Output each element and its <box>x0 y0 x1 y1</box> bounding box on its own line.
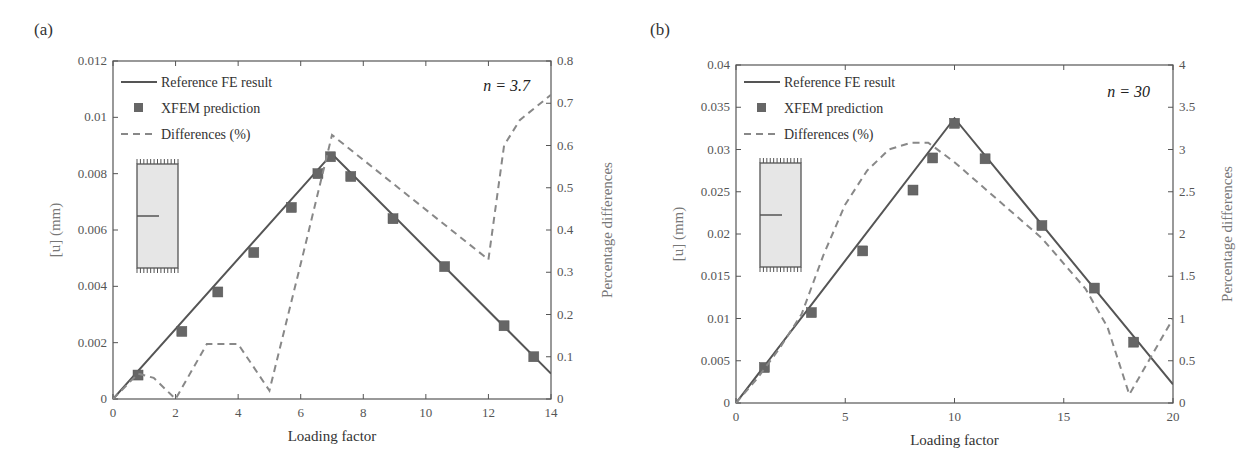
y-tick-label: 0.006 <box>78 222 108 237</box>
xfem-marker <box>806 308 816 318</box>
xfem-marker <box>440 262 450 272</box>
xfem-marker <box>249 248 259 258</box>
xfem-marker <box>928 153 938 163</box>
xfem-marker <box>529 352 539 362</box>
x-tick-label: 5 <box>842 409 849 424</box>
x-tick-label: 10 <box>419 405 432 420</box>
x-tick-label: 15 <box>1057 409 1070 424</box>
y-right-tick-label: 0.5 <box>1179 353 1195 368</box>
charts-canvas: 0246810121400.0020.0040.0060.0080.010.01… <box>0 0 1259 476</box>
legend-square-swatch <box>134 103 143 112</box>
legend: Reference FE resultXFEM predictionDiffer… <box>121 75 272 143</box>
legend-entry: Reference FE result <box>784 75 895 90</box>
y-tick-label: 0.004 <box>78 278 108 293</box>
y-right-tick-label: 0 <box>557 391 564 406</box>
specimen-inset-icon <box>760 158 801 272</box>
y-right-tick-label: 0.4 <box>557 222 574 237</box>
y-right-tick-label: 0.2 <box>557 307 573 322</box>
y-tick-label: 0.04 <box>707 57 730 72</box>
y-tick-label: 0.008 <box>78 166 107 181</box>
y-tick-label: 0.01 <box>707 311 730 326</box>
y-right-tick-label: 0.1 <box>557 349 573 364</box>
xfem-marker <box>213 287 223 297</box>
y-tick-label: 0.005 <box>701 353 730 368</box>
y-right-tick-label: 4 <box>1179 57 1186 72</box>
y-tick-label: 0.035 <box>701 99 730 114</box>
xfem-marker <box>908 185 918 195</box>
y-right-tick-label: 2.5 <box>1179 184 1195 199</box>
x-tick-label: 0 <box>110 405 117 420</box>
specimen-inset-icon <box>137 159 178 273</box>
x-axis-label: Loading factor <box>288 428 377 444</box>
y-right-tick-label: 3.5 <box>1179 99 1195 114</box>
legend: Reference FE resultXFEM predictionDiffer… <box>744 75 895 143</box>
y-right-tick-label: 0.8 <box>557 53 573 68</box>
legend-entry: Differences (%) <box>784 127 874 143</box>
y-right-tick-label: 1 <box>1179 311 1186 326</box>
xfem-marker <box>950 118 960 128</box>
xfem-marker <box>177 326 187 336</box>
xfem-marker <box>388 214 398 224</box>
xfem-marker <box>1089 283 1099 293</box>
x-tick-label: 8 <box>360 405 367 420</box>
y-tick-label: 0.02 <box>707 226 730 241</box>
xfem-marker <box>858 246 868 256</box>
y-right-tick-label: 0.5 <box>557 180 573 195</box>
legend-entry: Reference FE result <box>161 75 272 90</box>
legend-square-swatch <box>757 103 766 112</box>
y-right-tick-label: 0.7 <box>557 95 574 110</box>
y-tick-label: 0 <box>724 395 731 410</box>
y-right-axis-label: Percentage differences <box>599 162 615 298</box>
x-tick-label: 20 <box>1167 409 1180 424</box>
x-tick-label: 10 <box>948 409 961 424</box>
y-tick-label: 0.015 <box>701 268 730 283</box>
y-right-tick-label: 0 <box>1179 395 1186 410</box>
x-tick-label: 6 <box>297 405 304 420</box>
y-tick-label: 0 <box>101 391 108 406</box>
y-right-tick-label: 2 <box>1179 226 1186 241</box>
xfem-marker <box>1129 337 1139 347</box>
x-axis-label: Loading factor <box>910 432 999 448</box>
y-right-tick-label: 3 <box>1179 142 1186 157</box>
n-annotation: n = 30 <box>1107 83 1150 100</box>
reference-fe-line <box>113 154 551 399</box>
xfem-marker <box>313 169 323 179</box>
xfem-marker <box>286 202 296 212</box>
y-right-axis-label: Percentage differences <box>1219 166 1235 302</box>
chart-b: 0510152000.0050.010.0150.020.0250.030.03… <box>670 57 1235 448</box>
y-tick-label: 0.025 <box>701 184 730 199</box>
y-right-tick-label: 0.6 <box>557 138 574 153</box>
x-tick-label: 4 <box>235 405 242 420</box>
y-right-tick-label: 0.3 <box>557 264 573 279</box>
x-tick-label: 14 <box>545 405 559 420</box>
xfem-marker <box>980 154 990 164</box>
chart-a: 0246810121400.0020.0040.0060.0080.010.01… <box>47 53 615 444</box>
y-tick-label: 0.01 <box>84 109 107 124</box>
legend-entry: XFEM prediction <box>161 101 260 116</box>
y-axis-label: [u] (mm) <box>670 207 687 262</box>
xfem-marker <box>346 171 356 181</box>
legend-entry: XFEM prediction <box>784 101 883 116</box>
y-axis-label: [u] (mm) <box>47 203 64 258</box>
y-tick-label: 0.002 <box>78 335 107 350</box>
xfem-marker <box>499 321 509 331</box>
legend-entry: Differences (%) <box>161 127 251 143</box>
x-tick-label: 0 <box>733 409 740 424</box>
xfem-marker <box>1037 221 1047 231</box>
y-tick-label: 0.03 <box>707 142 730 157</box>
n-annotation: n = 3.7 <box>483 77 531 94</box>
y-right-tick-label: 1.5 <box>1179 268 1195 283</box>
y-tick-label: 0.012 <box>78 53 107 68</box>
x-tick-label: 2 <box>172 405 179 420</box>
x-tick-label: 12 <box>482 405 495 420</box>
